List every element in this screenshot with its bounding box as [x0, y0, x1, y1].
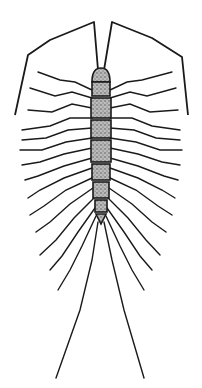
legs-right: [104, 72, 182, 378]
body: [91, 68, 111, 224]
legs-left: [20, 72, 98, 378]
centipede-drawing: [0, 0, 202, 388]
centipede-illustration: house centipede illustration: [0, 0, 202, 388]
